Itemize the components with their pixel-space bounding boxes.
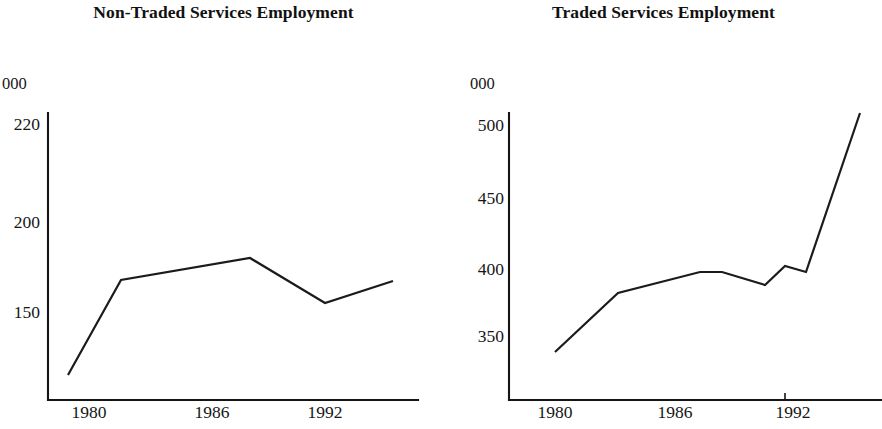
chart-panel-traded: Traded Services Employment 000 500 450 4…	[441, 0, 882, 429]
services-employment-figure: Non-Traded Services Employment 000 220 2…	[0, 0, 882, 429]
plot-area-traded	[441, 0, 882, 429]
plot-area-non-traded	[0, 0, 441, 429]
data-line-traded	[555, 113, 860, 352]
data-line-non-traded	[68, 258, 393, 375]
chart-panel-non-traded: Non-Traded Services Employment 000 220 2…	[0, 0, 441, 429]
